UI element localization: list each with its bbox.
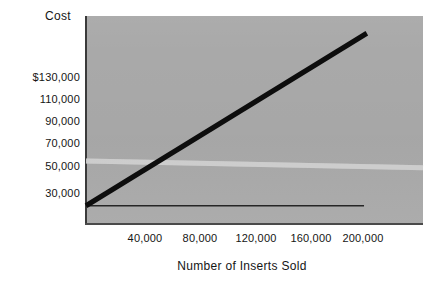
x-tick-label: 200,000	[328, 232, 398, 244]
y-tick-label: $130,000	[8, 71, 80, 83]
y-tick-label: 90,000	[8, 115, 80, 127]
y-axis-line	[85, 16, 87, 225]
y-tick-label: 70,000	[8, 137, 80, 149]
y-axis-tick-labels: $130,000 110,000 90,000 70,000 50,000 30…	[5, 0, 80, 284]
y-tick-label: 50,000	[8, 160, 80, 172]
y-tick-label: 30,000	[8, 187, 80, 199]
chart-figure: Cost $130,000 110,000 90,000 70,000 50,0…	[0, 0, 442, 284]
y-tick-label: 110,000	[8, 93, 80, 105]
plot-area	[85, 16, 423, 223]
x-axis-line	[85, 223, 423, 225]
x-axis-title: Number of Inserts Sold	[0, 259, 442, 273]
